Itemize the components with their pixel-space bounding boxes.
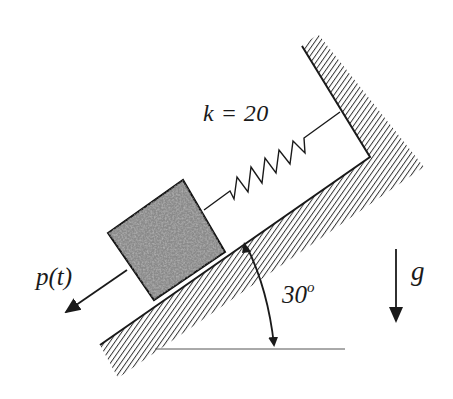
degree-symbol: o [307, 279, 315, 295]
angle-label: 30o [282, 282, 315, 307]
gravity-label: g [411, 258, 425, 285]
force-arrow [66, 270, 127, 312]
force-label: p(t) [36, 264, 72, 289]
diagram-svg [0, 0, 453, 399]
spring-constant-label: k = 20 [203, 101, 269, 125]
diagram-canvas: k = 20 p(t) 30o g [0, 0, 453, 399]
angle-value: 30 [282, 281, 307, 308]
